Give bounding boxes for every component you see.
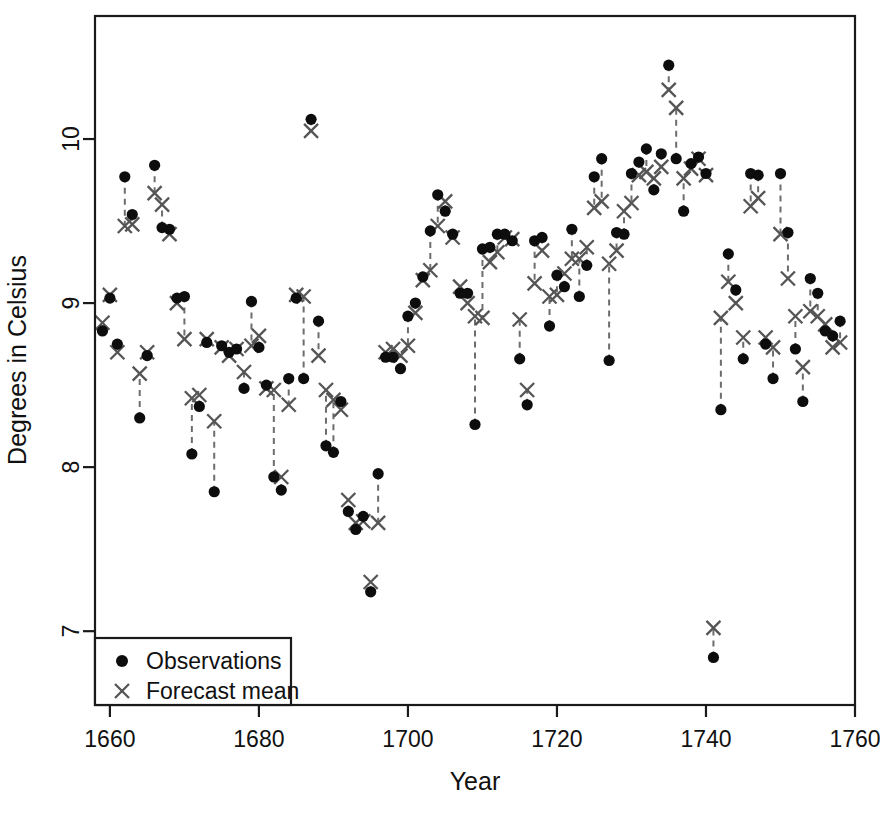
observation-points-group <box>97 60 846 663</box>
observation-point-marker <box>112 338 123 349</box>
observation-point-marker <box>127 209 138 220</box>
observation-point-marker <box>805 273 816 284</box>
x-axis-ticks: 166016801700172017401760 <box>84 705 880 752</box>
observation-point-marker <box>164 224 175 235</box>
forecast-point-marker <box>155 198 169 212</box>
observation-point-marker <box>581 260 592 271</box>
forecast-point-marker <box>282 398 296 412</box>
observation-point-marker <box>328 447 339 458</box>
temperature-scatter-chart: 166016801700172017401760 78910 Year Degr… <box>0 0 880 813</box>
observation-point-marker <box>834 316 845 327</box>
y-axis-title: Degrees in Celsius <box>3 255 31 465</box>
observation-point-marker <box>305 114 316 125</box>
legend-label-forecast-mean: Forecast mean <box>146 678 299 704</box>
observation-point-marker <box>402 311 413 322</box>
observation-point-marker <box>566 224 577 235</box>
observation-point-marker <box>574 291 585 302</box>
observation-point-marker <box>440 206 451 217</box>
y-tick-label: 10 <box>58 126 84 152</box>
legend: Observations Forecast mean <box>95 638 299 705</box>
forecast-point-marker <box>133 367 147 381</box>
forecast-point-marker <box>647 171 661 185</box>
observation-point-marker <box>417 271 428 282</box>
observation-point-marker <box>298 373 309 384</box>
observation-point-marker <box>313 316 324 327</box>
observation-point-marker <box>633 156 644 167</box>
observation-point-marker <box>119 171 130 182</box>
observation-point-marker <box>425 225 436 236</box>
observation-point-marker <box>276 484 287 495</box>
observation-point-marker <box>760 338 771 349</box>
observation-point-marker <box>343 506 354 517</box>
observation-point-marker <box>261 380 272 391</box>
observation-point-marker <box>626 168 637 179</box>
observation-point-marker <box>596 153 607 164</box>
observation-point-marker <box>358 511 369 522</box>
observation-point-marker <box>365 586 376 597</box>
x-tick-label: 1760 <box>829 726 880 752</box>
forecast-point-marker <box>826 340 840 354</box>
observation-point-marker <box>149 160 160 171</box>
observation-point-marker <box>134 412 145 423</box>
forecast-point-marker <box>714 311 728 325</box>
observation-point-marker <box>648 184 659 195</box>
observation-point-marker <box>589 171 600 182</box>
observation-point-marker <box>514 353 525 364</box>
observation-point-marker <box>551 270 562 281</box>
forecast-point-marker <box>796 360 810 374</box>
observation-point-marker <box>335 396 346 407</box>
observation-point-marker <box>544 320 555 331</box>
forecast-point-marker <box>654 160 668 174</box>
observation-point-marker <box>179 291 190 302</box>
observation-point-marker <box>618 229 629 240</box>
x-tick-label: 1740 <box>680 726 731 752</box>
observation-point-marker <box>387 352 398 363</box>
observation-point-marker <box>753 170 764 181</box>
forecast-point-marker <box>207 414 221 428</box>
forecast-point-marker <box>312 349 326 363</box>
forecast-point-marker <box>751 191 765 205</box>
observation-point-marker <box>142 350 153 361</box>
observation-point-marker <box>469 419 480 430</box>
x-axis-title: Year <box>450 767 501 795</box>
observation-point-marker <box>104 293 115 304</box>
observation-point-marker <box>671 153 682 164</box>
observation-point-marker <box>291 293 302 304</box>
observation-point-marker <box>373 468 384 479</box>
x-tick-label: 1720 <box>531 726 582 752</box>
connector-lines-group <box>102 65 840 657</box>
observation-point-marker <box>97 325 108 336</box>
observation-point-marker <box>484 242 495 253</box>
observation-point-marker <box>663 60 674 71</box>
observation-point-marker <box>507 235 518 246</box>
observation-point-marker <box>186 448 197 459</box>
observation-point-marker <box>715 404 726 415</box>
y-tick-label: 9 <box>58 297 84 310</box>
forecast-point-marker <box>319 383 333 397</box>
observation-point-marker <box>462 288 473 299</box>
y-tick-label: 8 <box>58 461 84 474</box>
observation-point-marker <box>700 168 711 179</box>
chart-figure: 166016801700172017401760 78910 Year Degr… <box>0 0 880 813</box>
forecast-point-marker <box>520 383 534 397</box>
observation-point-marker <box>194 401 205 412</box>
y-axis-ticks: 78910 <box>58 126 95 637</box>
observation-point-marker <box>678 206 689 217</box>
observation-point-marker <box>410 297 421 308</box>
observation-point-marker <box>522 399 533 410</box>
observation-point-marker <box>730 284 741 295</box>
observation-point-marker <box>432 189 443 200</box>
forecast-point-marker <box>729 296 743 310</box>
observation-point-marker <box>201 337 212 348</box>
observation-point-marker <box>246 296 257 307</box>
observation-point-marker <box>827 330 838 341</box>
forecast-point-marker <box>252 329 266 343</box>
observation-point-marker <box>641 143 652 154</box>
observation-point-marker <box>723 248 734 259</box>
forecast-mean-points-group <box>95 83 847 635</box>
observation-point-marker <box>395 363 406 374</box>
observation-point-marker <box>693 151 704 162</box>
observation-point-marker <box>238 383 249 394</box>
forecast-point-marker <box>304 124 318 138</box>
observation-point-marker <box>656 148 667 159</box>
